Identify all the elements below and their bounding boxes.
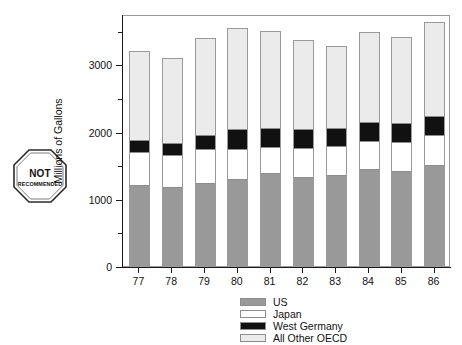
bar-78[interactable] — [162, 58, 183, 266]
bar-segment-us-79 — [196, 184, 215, 266]
bar-segment-west-germany-81 — [261, 129, 280, 148]
bar-77[interactable] — [129, 51, 150, 266]
bar-segment-all-other-oecd-77 — [130, 52, 149, 141]
bar-segment-japan-84 — [360, 142, 379, 170]
bar-segment-all-other-oecd-79 — [196, 39, 215, 136]
legend-item-west-germany[interactable]: West Germany — [240, 320, 347, 332]
y-axis: 0100020003000 — [114, 15, 122, 267]
bar-segment-west-germany-85 — [392, 124, 411, 143]
bar-segment-all-other-oecd-78 — [163, 59, 182, 144]
x-tick-78 — [171, 268, 172, 273]
y-tick-3000 — [116, 65, 122, 66]
bar-segment-west-germany-86 — [425, 117, 444, 135]
bar-segment-us-77 — [130, 186, 149, 266]
x-tick-label-78: 78 — [165, 275, 177, 287]
y-minor-tick-500 — [118, 233, 122, 234]
bar-segment-us-80 — [228, 180, 247, 266]
bar-segment-all-other-oecd-82 — [294, 41, 313, 131]
badge-line1: NOT — [29, 168, 51, 179]
legend-item-us[interactable]: US — [240, 296, 347, 308]
bar-segment-japan-80 — [228, 150, 247, 181]
bar-segment-us-78 — [163, 188, 182, 266]
x-tick-80 — [237, 268, 238, 273]
bar-segment-us-85 — [392, 172, 411, 266]
x-tick-85 — [401, 268, 402, 273]
legend-swatch-west-germany — [240, 322, 266, 330]
bar-segment-us-82 — [294, 178, 313, 266]
x-tick-label-79: 79 — [198, 275, 210, 287]
bar-segment-west-germany-80 — [228, 130, 247, 149]
y-tick-label-0: 0 — [106, 261, 112, 273]
legend-label: All Other OECD — [273, 333, 347, 344]
bar-segment-us-83 — [327, 176, 346, 266]
bars-container — [123, 16, 449, 266]
bar-segment-all-other-oecd-83 — [327, 47, 346, 129]
bar-segment-japan-83 — [327, 147, 346, 176]
x-tick-label-84: 84 — [362, 275, 374, 287]
x-tick-label-82: 82 — [297, 275, 309, 287]
x-tick-label-86: 86 — [428, 275, 440, 287]
bar-79[interactable] — [195, 38, 216, 266]
bar-segment-west-germany-84 — [360, 123, 379, 141]
x-tick-86 — [434, 268, 435, 273]
bar-segment-japan-82 — [294, 149, 313, 178]
x-tick-81 — [270, 268, 271, 273]
bar-segment-west-germany-82 — [294, 130, 313, 149]
legend-label: US — [273, 297, 288, 308]
x-tick-84 — [368, 268, 369, 273]
legend-swatch-us — [240, 298, 266, 306]
y-axis-title: Millions of Gallons — [52, 71, 64, 211]
y-axis-line — [122, 15, 123, 268]
x-tick-label-83: 83 — [329, 275, 341, 287]
plot-area — [122, 15, 450, 267]
bar-segment-japan-79 — [196, 150, 215, 184]
legend: USJapanWest GermanyAll Other OECD — [240, 296, 347, 344]
bar-85[interactable] — [391, 37, 412, 266]
legend-item-all-other-oecd[interactable]: All Other OECD — [240, 332, 347, 344]
bar-segment-west-germany-79 — [196, 136, 215, 149]
y-minor-tick-2500 — [118, 99, 122, 100]
y-minor-tick-3500 — [118, 32, 122, 33]
x-tick-77 — [138, 268, 139, 273]
bar-segment-us-84 — [360, 170, 379, 266]
x-tick-label-77: 77 — [133, 275, 145, 287]
bar-segment-japan-86 — [425, 136, 444, 166]
y-tick-label-2000: 2000 — [89, 127, 112, 139]
legend-label: West Germany — [273, 321, 343, 332]
x-tick-label-85: 85 — [395, 275, 407, 287]
legend-swatch-all-other-oecd — [240, 334, 266, 342]
x-tick-82 — [302, 268, 303, 273]
x-tick-79 — [204, 268, 205, 273]
bar-83[interactable] — [326, 46, 347, 266]
bar-segment-japan-77 — [130, 153, 149, 186]
bar-segment-west-germany-78 — [163, 144, 182, 156]
y-tick-label-1000: 1000 — [89, 194, 112, 206]
bar-segment-all-other-oecd-80 — [228, 29, 247, 130]
bar-segment-all-other-oecd-86 — [425, 23, 444, 117]
bar-86[interactable] — [424, 22, 445, 266]
bar-segment-west-germany-77 — [130, 141, 149, 153]
y-tick-2000 — [116, 133, 122, 134]
bar-segment-all-other-oecd-84 — [360, 33, 379, 123]
bar-segment-japan-85 — [392, 143, 411, 172]
bar-84[interactable] — [359, 32, 380, 266]
bar-81[interactable] — [260, 31, 281, 266]
bar-segment-japan-81 — [261, 148, 280, 175]
x-tick-label-81: 81 — [264, 275, 276, 287]
figure-root: NOT RECOMMENDED Millions of Gallons 0100… — [0, 0, 462, 345]
y-tick-1000 — [116, 200, 122, 201]
legend-swatch-japan — [240, 310, 266, 318]
y-tick-label-3000: 3000 — [89, 59, 112, 71]
bar-segment-us-86 — [425, 166, 444, 266]
x-tick-83 — [335, 268, 336, 273]
legend-item-japan[interactable]: Japan — [240, 308, 347, 320]
y-minor-tick-1500 — [118, 166, 122, 167]
x-tick-label-80: 80 — [231, 275, 243, 287]
bar-segment-japan-78 — [163, 156, 182, 189]
bar-segment-all-other-oecd-81 — [261, 32, 280, 129]
bar-82[interactable] — [293, 40, 314, 266]
bar-80[interactable] — [227, 28, 248, 266]
bar-segment-us-81 — [261, 174, 280, 266]
bar-segment-west-germany-83 — [327, 129, 346, 147]
legend-label: Japan — [273, 309, 302, 320]
